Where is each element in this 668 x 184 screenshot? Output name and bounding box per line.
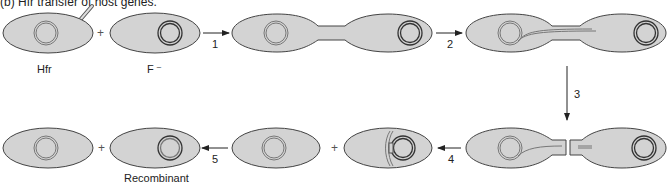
f-minus-label: F ⁻ <box>147 63 162 75</box>
hfr-label: Hfr <box>37 63 52 75</box>
recombinant-cell <box>110 128 200 168</box>
hfr-cell <box>3 6 93 53</box>
plus-operator-2: + <box>331 141 338 155</box>
ex-hfr-cell <box>232 128 320 168</box>
recombinant-label: Recombinant <box>124 172 189 184</box>
step-3-number: 3 <box>574 88 580 100</box>
dna-transfer-pair <box>466 14 666 52</box>
f-minus-cell <box>110 13 200 53</box>
hfr-transfer-diagram: Hfr + F ⁻ 1 2 3 <box>0 0 668 184</box>
step-4-number: 4 <box>448 153 454 165</box>
separated-cells <box>466 128 666 168</box>
step-1-number: 1 <box>212 38 218 50</box>
mating-pair-bridge <box>232 14 432 52</box>
recombining-cell <box>344 128 432 168</box>
hfr-cell-after <box>3 128 93 168</box>
step-5-number: 5 <box>212 153 218 165</box>
plus-operator-3: + <box>98 141 105 155</box>
plus-operator: + <box>97 26 104 40</box>
step-2-number: 2 <box>447 38 453 50</box>
